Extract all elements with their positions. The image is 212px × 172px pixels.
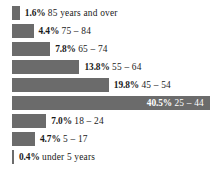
bar-row: 40.5% 25 – 44 <box>0 96 212 110</box>
bar-label: 1.6% 85 years and over <box>25 6 118 20</box>
bar-label: 4.4% 75 – 84 <box>39 24 92 38</box>
bar-value-label: 4.7% <box>40 134 61 144</box>
bar <box>12 150 14 164</box>
bar-category-label: 55 – 64 <box>112 62 142 72</box>
bar <box>12 114 46 128</box>
bar-label: 19.8% 45 – 54 <box>114 78 171 92</box>
bar-row: 4.4% 75 – 84 <box>0 24 212 38</box>
bar-category-label: 5 – 17 <box>63 134 88 144</box>
bar <box>12 60 79 74</box>
bar-category-label: 18 – 24 <box>74 116 104 126</box>
bar-row: 19.8% 45 – 54 <box>0 78 212 92</box>
bar-category-label: under 5 years <box>42 152 95 162</box>
bar-value-label: 4.4% <box>39 26 60 36</box>
bar-row: 4.7% 5 – 17 <box>0 132 212 146</box>
bar-row: 1.6% 85 years and over <box>0 6 212 20</box>
bar <box>12 24 34 38</box>
bar <box>12 132 35 146</box>
bar-value-label: 13.8% <box>84 62 109 72</box>
bar-category-label: 85 years and over <box>48 8 118 18</box>
bar-category-label: 25 – 44 <box>174 98 204 108</box>
bar-label: 0.4% under 5 years <box>19 150 95 164</box>
bar-value-label: 19.8% <box>114 80 139 90</box>
bar-row: 0.4% under 5 years <box>0 150 212 164</box>
bar <box>12 78 109 92</box>
bar-label: 7.0% 18 – 24 <box>51 114 104 128</box>
bar <box>12 6 20 20</box>
bar-row: 7.8% 65 – 74 <box>0 42 212 56</box>
bar-label: 4.7% 5 – 17 <box>40 132 88 146</box>
bar-label: 7.8% 65 – 74 <box>55 42 108 56</box>
bar-row: 7.0% 18 – 24 <box>0 114 212 128</box>
bar-value-label: 1.6% <box>25 8 46 18</box>
bar-category-label: 75 – 84 <box>62 26 92 36</box>
bar-category-label: 65 – 74 <box>78 44 108 54</box>
bar-value-label: 7.0% <box>51 116 72 126</box>
bar <box>12 42 50 56</box>
bar-value-label: 40.5% <box>147 98 172 108</box>
bar-value-label: 7.8% <box>55 44 76 54</box>
bar-label: 13.8% 55 – 64 <box>84 60 141 74</box>
bar-chart: 1.6% 85 years and over4.4% 75 – 847.8% 6… <box>0 0 212 172</box>
bar-row: 13.8% 55 – 64 <box>0 60 212 74</box>
bar-category-label: 45 – 54 <box>141 80 171 90</box>
bar-value-label: 0.4% <box>19 152 40 162</box>
bar-label: 40.5% 25 – 44 <box>147 96 204 110</box>
